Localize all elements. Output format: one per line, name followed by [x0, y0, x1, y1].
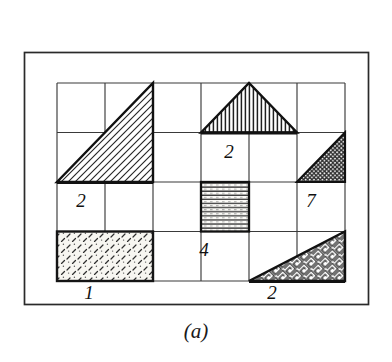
center-horizontal-hatched-square [201, 182, 249, 232]
cell-label-4-center: 4 [199, 239, 209, 260]
bottom-left-speckled-rectangle [57, 232, 153, 282]
cell-label-2-center: 2 [224, 141, 234, 162]
cell-label-2-left: 2 [76, 190, 86, 211]
figure-caption: (a) [184, 319, 209, 343]
figure-svg: 2 2 7 4 1 2 (a) [0, 0, 392, 362]
figure-root: 2 2 7 4 1 2 (a) [0, 0, 392, 362]
edge-label-2: 2 [267, 282, 277, 303]
cell-label-7-right: 7 [306, 190, 317, 211]
edge-label-1: 1 [84, 282, 94, 303]
